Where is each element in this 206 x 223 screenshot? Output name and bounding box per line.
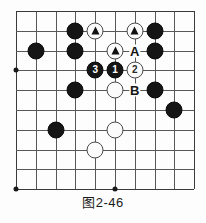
grid-line-horizontal (16, 11, 194, 12)
white-stone-c5r6[interactable] (107, 121, 124, 138)
black-stone-c3r4[interactable] (67, 82, 84, 99)
figure-container: 312 AB 图2-46 (0, 0, 206, 223)
go-board[interactable]: 312 AB (16, 11, 195, 179)
grid-line-horizontal (16, 31, 194, 32)
grid-line-vertical (16, 11, 17, 189)
black-stone-c8r5[interactable] (166, 102, 183, 119)
black-stone-c3r2[interactable] (67, 42, 84, 59)
black-stone-move-3[interactable]: 3 (87, 62, 104, 79)
grid-line-vertical (56, 11, 57, 189)
hoshi-left-icon (14, 68, 19, 73)
white-stone-c4r1[interactable] (87, 22, 104, 39)
black-stone-c3r1[interactable] (67, 22, 84, 39)
black-stone-c2r6[interactable] (47, 121, 64, 138)
grid-line-horizontal (16, 169, 194, 170)
figure-caption: 图2-46 (0, 192, 206, 211)
white-stone-c6r1[interactable] (126, 22, 143, 39)
grid-line-horizontal (16, 150, 194, 151)
grid-line-horizontal (16, 70, 194, 71)
triangle-marker-icon (111, 46, 119, 54)
stone-move-number: 1 (112, 65, 118, 75)
stone-move-number: 2 (132, 65, 138, 75)
black-stone-c7r1[interactable] (146, 22, 163, 39)
white-stone-c4r7[interactable] (87, 141, 104, 158)
grid-line-vertical (115, 11, 116, 189)
grid-line-vertical (174, 11, 175, 189)
black-stone-move-1[interactable]: 1 (107, 62, 124, 79)
stone-move-number: 3 (92, 65, 98, 75)
grid-line-vertical (36, 11, 37, 189)
grid-line-horizontal (16, 90, 194, 91)
black-stone-c7r2[interactable] (146, 42, 163, 59)
point-label-b: B (129, 84, 140, 97)
grid-line-horizontal (16, 189, 194, 190)
white-stone-c5r4[interactable] (107, 82, 124, 99)
black-stone-c1r2[interactable] (27, 42, 44, 59)
hoshi-bottom-left-icon (14, 187, 19, 192)
hoshi-bottom-center-icon (113, 187, 118, 192)
white-stone-move-2[interactable]: 2 (126, 62, 143, 79)
black-stone-c7r4[interactable] (146, 82, 163, 99)
white-stone-c5r2[interactable] (107, 42, 124, 59)
grid-line-vertical (194, 11, 195, 189)
point-label-a: A (129, 44, 140, 57)
triangle-marker-icon (91, 26, 99, 34)
triangle-marker-icon (131, 26, 139, 34)
grid-line-horizontal (16, 130, 194, 131)
